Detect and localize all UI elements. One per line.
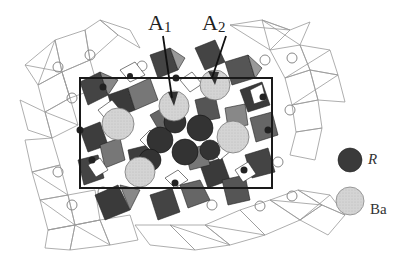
legend-r-sphere xyxy=(338,148,362,172)
crystal-structure-figure: A1 A2 R Ba xyxy=(0,0,410,259)
label-a2: A2 xyxy=(202,12,225,35)
structure-drawing xyxy=(0,0,410,259)
legend-ba-label: Ba xyxy=(370,201,387,218)
legend-ba-sphere xyxy=(336,187,364,215)
outer-wireframe-polyhedra xyxy=(20,20,345,250)
label-a1: A1 xyxy=(148,12,171,35)
legend-r-label: R xyxy=(368,151,377,168)
